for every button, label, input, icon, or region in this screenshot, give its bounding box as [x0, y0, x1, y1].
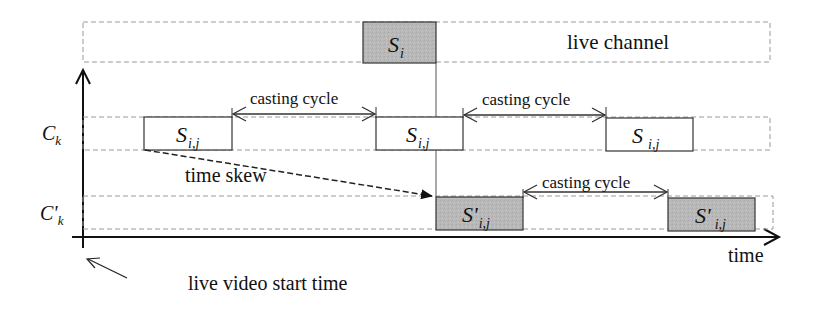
casting-cycle-3-label: casting cycle: [542, 173, 630, 192]
live-channel-band: Si live channel: [83, 22, 770, 63]
casting-cycle-1: casting cycle: [232, 89, 376, 121]
live-start-label: live video start time: [188, 272, 348, 294]
channel-ck-label: Ck: [42, 122, 61, 148]
live-start-annotation: live video start time: [87, 258, 348, 294]
channel-cpk: C'k S'i,j S'i,j: [40, 196, 773, 232]
timing-diagram: Si live channel time Ck Si,j Si,j Si,j c…: [0, 0, 821, 311]
axes: time: [72, 70, 779, 266]
live-channel-label: live channel: [567, 30, 669, 54]
time-skew-label: time skew: [185, 164, 267, 186]
casting-cycle-3: casting cycle: [523, 173, 668, 199]
casting-cycle-1-label: casting cycle: [250, 89, 338, 108]
channel-ck: Ck Si,j Si,j Si,j: [42, 117, 770, 152]
casting-cycle-2-label: casting cycle: [482, 90, 570, 109]
pointer-arrow-icon: [88, 259, 127, 278]
time-axis-label: time: [728, 244, 764, 266]
channel-cpk-label: C'k: [40, 202, 64, 228]
time-skew-arrow: time skew: [145, 150, 432, 196]
cpk-segment-2: [668, 198, 755, 231]
